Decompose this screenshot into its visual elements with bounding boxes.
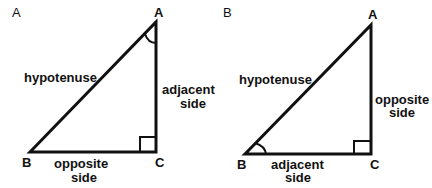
vertex-b: B (237, 157, 246, 172)
angle-arc-a (145, 34, 156, 43)
hypotenuse-label: hypotenuse (239, 72, 312, 87)
vertical-side-label-line2: side (389, 105, 415, 120)
panel-label: A (12, 5, 21, 20)
vertex-c: C (155, 155, 165, 170)
panel-b: B A B C hypotenuse opposite side adjacen… (223, 5, 429, 185)
hypotenuse-label: hypotenuse (24, 70, 97, 85)
vertex-a: A (368, 7, 378, 22)
right-angle-marker (354, 141, 371, 154)
vertex-c: C (370, 157, 380, 172)
horizontal-side-label-line1: opposite (54, 156, 108, 171)
panel-a: A A B C hypotenuse adjacent side opposit… (12, 5, 215, 185)
vertex-b: B (22, 155, 31, 170)
vertical-side-label-line2: side (180, 96, 206, 111)
vertex-a: A (154, 5, 164, 20)
right-angle-marker (140, 137, 156, 152)
right-triangle (245, 25, 371, 154)
angle-arc-b (255, 143, 266, 154)
horizontal-side-label-line2: side (71, 170, 97, 185)
vertical-side-label-line1: adjacent (162, 82, 215, 97)
triangles-diagram: A A B C hypotenuse adjacent side opposit… (0, 0, 432, 188)
panel-label: B (223, 5, 232, 20)
right-triangle (30, 22, 156, 152)
horizontal-side-label-line2: side (285, 170, 311, 185)
